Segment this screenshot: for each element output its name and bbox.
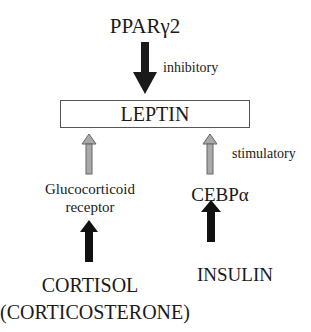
node-ppar-gamma2: PPARγ2 <box>100 14 190 39</box>
node-glucocorticoid-line2: receptor <box>40 198 140 216</box>
node-insulin: INSULIN <box>190 264 280 286</box>
stimulatory-arrow-right <box>203 134 217 174</box>
stimulatory-arrow-left <box>82 134 96 174</box>
node-cebp-alpha: CEBPα <box>185 184 255 206</box>
leptin-box: LEPTIN <box>60 100 250 128</box>
insulin-arrow <box>201 200 221 242</box>
label-stimulatory: stimulatory <box>232 146 296 162</box>
node-cortisol: CORTISOL (CORTICOSTERONE) <box>0 272 180 326</box>
label-inhibitory: inhibitory <box>163 60 218 76</box>
node-cortisol-line2: (CORTICOSTERONE) <box>0 299 180 326</box>
inhibitory-arrow <box>133 42 157 94</box>
node-cortisol-line1: CORTISOL <box>0 272 180 299</box>
cortisol-arrow <box>80 220 98 262</box>
node-glucocorticoid-receptor: Glucocorticoid receptor <box>40 180 140 216</box>
node-leptin: LEPTIN <box>61 103 249 126</box>
node-glucocorticoid-line1: Glucocorticoid <box>40 180 140 198</box>
